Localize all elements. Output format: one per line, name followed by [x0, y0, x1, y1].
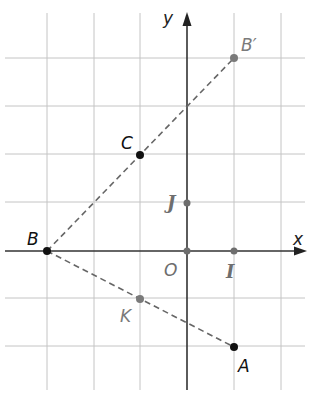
point-A	[230, 343, 238, 351]
point-B	[43, 247, 51, 255]
axes	[5, 22, 298, 390]
label-I: I	[225, 261, 235, 282]
coordinate-diagram: y x B′ C J B O I K A	[0, 0, 309, 397]
point-I	[231, 248, 238, 255]
point-J	[184, 200, 191, 207]
label-K: K	[120, 306, 133, 326]
point-C	[136, 151, 144, 159]
point-O	[184, 248, 191, 255]
label-Bprime: B′	[241, 35, 257, 55]
label-C: C	[121, 133, 133, 153]
grid	[5, 13, 305, 390]
labels: y x B′ C J B O I K A	[27, 8, 304, 376]
label-O: O	[164, 260, 177, 280]
label-x: x	[292, 229, 304, 249]
point-K	[136, 295, 144, 303]
point-Bprime	[230, 54, 238, 62]
y-axis-arrow-icon	[183, 12, 192, 26]
label-y: y	[162, 8, 174, 28]
label-A: A	[237, 356, 250, 376]
label-B: B	[27, 229, 39, 249]
